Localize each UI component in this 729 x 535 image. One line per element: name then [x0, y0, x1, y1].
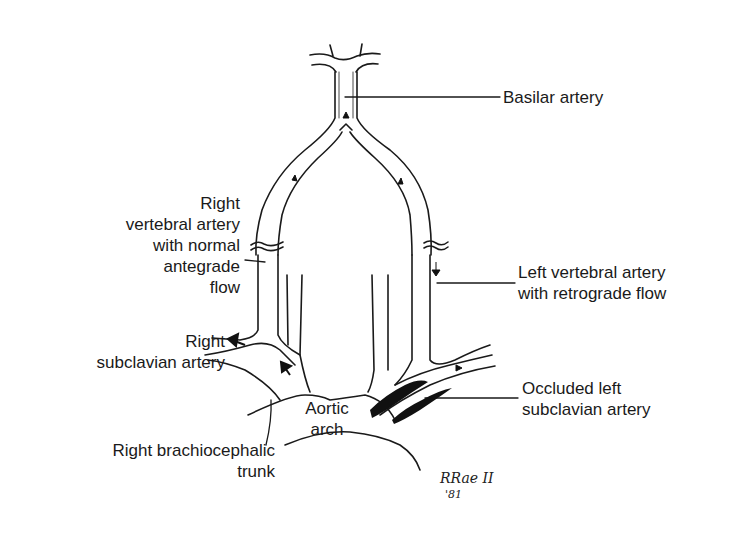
label-left-vertebral-artery: Left vertebral artery with retrograde fl… — [518, 262, 666, 304]
right-vertebral-leader — [245, 260, 265, 262]
diagram-canvas: Basilar artery Right vertebral artery wi… — [0, 0, 729, 535]
label-occluded-left-subclavian: Occluded left subclavian artery — [522, 378, 651, 420]
label-aortic-arch: Aortic arch — [292, 398, 362, 440]
occlusion-plaque — [370, 381, 452, 424]
label-brachiocephalic-trunk: Right brachiocephalic trunk — [20, 440, 275, 482]
label-right-subclavian-artery: Right subclavian artery — [90, 331, 225, 373]
artist-signature: RRae II — [440, 470, 494, 486]
signature-year: '81 — [445, 488, 462, 501]
label-right-vertebral-artery: Right vertebral artery with normal anteg… — [120, 193, 240, 298]
basilar-top-branch — [310, 53, 380, 59]
left-vertebral-outer-wall — [357, 72, 431, 255]
right-vertebral-outer-wall — [256, 72, 335, 255]
label-basilar-artery: Basilar artery — [503, 87, 603, 108]
